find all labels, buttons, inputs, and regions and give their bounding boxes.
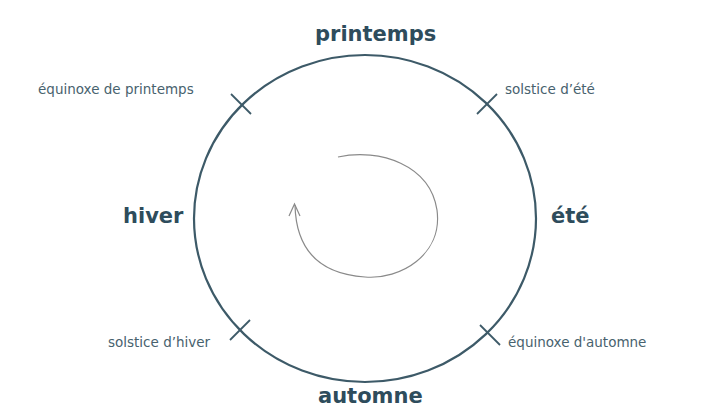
clockwise-spiral-arrow-icon (289, 155, 438, 278)
event-label-solstice-ete: solstice d’été (505, 81, 595, 97)
season-label-automne: automne (318, 384, 423, 408)
season-circle (194, 55, 536, 382)
season-label-printemps: printemps (315, 22, 436, 46)
event-label-equinoxe-automne: équinoxe d'automne (508, 334, 646, 350)
season-label-ete: été (551, 204, 590, 228)
event-label-solstice-hiver: solstice d’hiver (108, 334, 210, 350)
season-cycle-diagram (0, 0, 715, 419)
season-label-hiver: hiver (123, 204, 183, 228)
tick-mark-top-left (231, 94, 251, 114)
tick-mark-bottom-right (480, 325, 500, 345)
event-label-equinoxe-printemps: équinoxe de printemps (38, 81, 194, 97)
